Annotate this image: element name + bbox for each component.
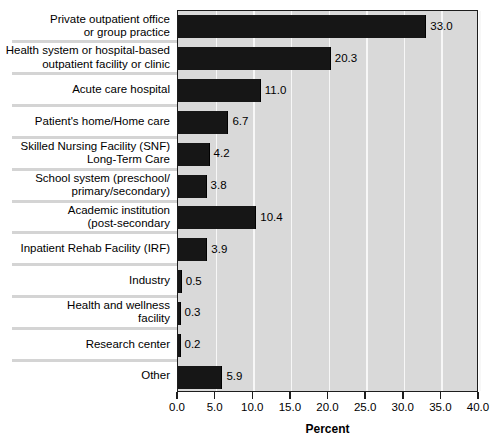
category-label: Patient's home/Home care [35, 115, 177, 128]
category-separator [12, 295, 177, 298]
category-separator [12, 136, 177, 139]
category-label: Industry [129, 274, 177, 287]
bar [178, 366, 222, 389]
bar [178, 79, 261, 102]
category-label: Skilled Nursing Facility (SNF) Long-Term… [20, 140, 177, 167]
category-separator [12, 231, 177, 234]
bar [178, 15, 426, 38]
bar [178, 206, 256, 229]
x-tick-mark [440, 392, 442, 399]
bar [178, 175, 207, 198]
x-tick-mark [364, 392, 366, 399]
category-separator [12, 200, 177, 203]
x-tick-mark [289, 392, 291, 399]
bar [178, 143, 210, 166]
bar [178, 111, 228, 134]
x-tick-mark [176, 392, 178, 399]
category-separator [12, 327, 177, 330]
category-label-row: Skilled Nursing Facility (SNF) Long-Term… [0, 137, 177, 169]
x-tick-label: 20.0 [316, 401, 338, 414]
bar [178, 238, 207, 261]
category-separator [12, 168, 177, 171]
category-label-row: Other [0, 360, 177, 392]
x-tick-mark [214, 392, 216, 399]
x-tick-mark [327, 392, 329, 399]
bar [178, 47, 331, 70]
x-axis-title: Percent [177, 422, 478, 436]
category-label: School system (preschool/ primary/second… [35, 172, 177, 199]
category-label-row: Health system or hospital-based outpatie… [0, 42, 177, 74]
category-separator [12, 72, 177, 75]
category-label: Academic institution (post-secondary [68, 204, 177, 231]
bar [178, 302, 181, 325]
horizontal-bar-chart: Private outpatient office or group pract… [0, 0, 501, 445]
x-tick-label: 40.0 [467, 401, 489, 414]
category-label-column: Private outpatient office or group pract… [0, 10, 177, 392]
category-separator [12, 40, 177, 43]
category-label: Acute care hospital [72, 83, 177, 96]
category-label: Private outpatient office or group pract… [50, 13, 177, 40]
category-label-row: Inpatient Rehab Facility (IRF) [0, 233, 177, 265]
category-separator [12, 263, 177, 266]
category-label-row: Research center [0, 328, 177, 360]
category-label-row: School system (preschool/ primary/second… [0, 169, 177, 201]
category-label-row: Industry [0, 265, 177, 297]
category-label: Health and wellness facility [67, 299, 177, 326]
category-label-row: Academic institution (post-secondary [0, 201, 177, 233]
category-label-row: Acute care hospital [0, 74, 177, 106]
x-axis: Percent 0.05.010.015.020.025.030.035.040… [177, 392, 478, 445]
bar [178, 334, 181, 357]
x-tick-mark [252, 392, 254, 399]
bars-layer [178, 11, 477, 391]
x-tick-label: 0.0 [169, 401, 185, 414]
x-tick-label: 35.0 [429, 401, 451, 414]
category-separator [12, 104, 177, 107]
x-tick-label: 30.0 [392, 401, 414, 414]
category-label: Inpatient Rehab Facility (IRF) [20, 242, 177, 255]
category-label-row: Patient's home/Home care [0, 106, 177, 138]
category-label-row: Private outpatient office or group pract… [0, 10, 177, 42]
x-tick-mark [477, 392, 479, 399]
category-label-row: Health and wellness facility [0, 297, 177, 329]
x-tick-label: 15.0 [279, 401, 301, 414]
x-tick-mark [402, 392, 404, 399]
plot-area [177, 10, 478, 392]
category-label: Other [141, 369, 177, 382]
x-tick-label: 10.0 [241, 401, 263, 414]
x-tick-label: 25.0 [354, 401, 376, 414]
gridline [479, 11, 481, 391]
category-label: Health system or hospital-based outpatie… [6, 44, 177, 71]
category-label: Research center [86, 338, 177, 351]
bar [178, 270, 182, 293]
x-tick-label: 5.0 [207, 401, 223, 414]
category-separator [12, 359, 177, 362]
